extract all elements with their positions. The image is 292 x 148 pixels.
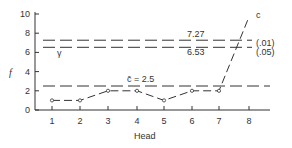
data-point-marker bbox=[217, 89, 220, 92]
data-point-marker bbox=[106, 89, 109, 92]
ucl-05-significance-label: (.05) bbox=[256, 47, 275, 57]
data-point-marker bbox=[190, 89, 193, 92]
x-tick-label: 1 bbox=[49, 116, 54, 126]
y-tick-label: 8 bbox=[25, 28, 30, 38]
y-axis-label: f bbox=[9, 67, 13, 78]
x-tick-label: 8 bbox=[246, 116, 251, 126]
control-chart: 0246810 12345678 f Head γ c̄ = 2.5 7.27 … bbox=[0, 0, 292, 148]
y-tick-label: 10 bbox=[20, 9, 30, 19]
series-line bbox=[52, 17, 249, 101]
x-tick-label: 4 bbox=[134, 116, 139, 126]
y-tick-label: 0 bbox=[25, 105, 30, 115]
x-axis-ticks: 12345678 bbox=[49, 106, 251, 126]
ucl-05-value-label: 6.53 bbox=[187, 47, 205, 57]
ucl-01-value-label: 7.27 bbox=[187, 29, 205, 39]
series-end-label: c bbox=[256, 10, 261, 20]
data-series bbox=[50, 17, 249, 102]
y-axis-ticks: 0246810 bbox=[20, 9, 39, 115]
x-tick-label: 2 bbox=[77, 116, 82, 126]
x-tick-label: 7 bbox=[216, 116, 221, 126]
reference-lines bbox=[43, 40, 270, 86]
x-tick-label: 5 bbox=[161, 116, 166, 126]
y-tick-label: 6 bbox=[25, 47, 30, 57]
x-axis-label: Head bbox=[134, 131, 156, 141]
x-tick-label: 6 bbox=[189, 116, 194, 126]
data-point-marker bbox=[162, 99, 165, 102]
x-tick-label: 3 bbox=[105, 116, 110, 126]
data-point-marker bbox=[135, 89, 138, 92]
y-tick-label: 2 bbox=[25, 86, 30, 96]
gamma-annotation: γ bbox=[57, 48, 62, 58]
axes bbox=[35, 12, 270, 110]
y-tick-label: 4 bbox=[25, 67, 30, 77]
data-point-marker bbox=[50, 99, 53, 102]
data-point-marker bbox=[78, 99, 81, 102]
center-line-label: c̄ = 2.5 bbox=[127, 74, 154, 84]
